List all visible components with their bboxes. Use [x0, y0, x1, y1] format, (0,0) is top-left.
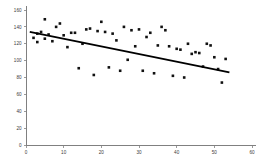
- data-point: [115, 39, 118, 42]
- y-tick-label: 0: [19, 143, 22, 148]
- data-point: [85, 28, 88, 31]
- data-point: [206, 42, 209, 45]
- x-tick-label: 50: [212, 150, 218, 155]
- data-point: [187, 42, 190, 45]
- plot-area: 020406080100120140160 0102030405060: [0, 0, 260, 166]
- y-tick-label: 80: [16, 75, 22, 80]
- data-point: [89, 27, 92, 30]
- data-point: [59, 22, 62, 25]
- y-tick-label: 40: [16, 109, 22, 114]
- y-tick-label: 120: [14, 41, 22, 46]
- y-tick-label: 140: [14, 25, 22, 30]
- data-point: [44, 18, 47, 21]
- data-point: [160, 26, 163, 29]
- data-point: [153, 72, 156, 75]
- data-point: [138, 28, 141, 31]
- data-point: [198, 52, 201, 55]
- data-point: [194, 51, 197, 54]
- data-point: [224, 58, 227, 61]
- data-point: [141, 69, 144, 72]
- scatter-chart: 020406080100120140160 0102030405060: [0, 0, 260, 166]
- x-tick-label: 40: [174, 150, 180, 155]
- data-point: [104, 31, 107, 34]
- data-point: [145, 36, 148, 39]
- data-point: [70, 31, 73, 34]
- data-point: [32, 37, 35, 40]
- data-point: [74, 31, 77, 34]
- y-axis-ticks: 020406080100120140160: [14, 8, 26, 148]
- x-tick-label: 10: [61, 150, 67, 155]
- data-point: [149, 31, 152, 34]
- data-point: [51, 40, 54, 43]
- data-point: [175, 48, 178, 51]
- data-point: [221, 81, 224, 84]
- data-point: [157, 44, 160, 47]
- x-tick-label: 0: [25, 150, 28, 155]
- data-point: [130, 29, 133, 32]
- data-point: [126, 58, 129, 61]
- y-tick-label: 60: [16, 92, 22, 97]
- data-point: [66, 46, 69, 49]
- y-tick-label: 160: [14, 8, 22, 13]
- data-point: [213, 56, 216, 59]
- data-point: [40, 31, 43, 34]
- data-point: [119, 69, 122, 72]
- data-point: [190, 53, 193, 56]
- data-points: [32, 18, 227, 84]
- data-point: [183, 76, 186, 79]
- x-tick-label: 60: [249, 150, 255, 155]
- data-point: [44, 37, 47, 40]
- x-tick-label: 20: [99, 150, 105, 155]
- data-point: [36, 41, 39, 44]
- data-point: [164, 29, 167, 32]
- data-point: [93, 74, 96, 77]
- data-point: [209, 44, 212, 47]
- data-point: [77, 67, 80, 70]
- data-point: [172, 75, 175, 78]
- data-point: [168, 45, 171, 48]
- data-point: [62, 34, 65, 37]
- x-axis-ticks: 0102030405060: [25, 145, 255, 155]
- data-point: [123, 26, 126, 29]
- data-point: [134, 45, 137, 48]
- x-tick-label: 30: [136, 150, 142, 155]
- data-point: [111, 32, 114, 35]
- y-tick-label: 100: [14, 58, 22, 63]
- y-tick-label: 20: [16, 126, 22, 131]
- data-point: [96, 30, 99, 33]
- data-point: [100, 21, 103, 24]
- data-point: [55, 26, 58, 29]
- data-point: [179, 48, 182, 51]
- data-point: [108, 66, 111, 69]
